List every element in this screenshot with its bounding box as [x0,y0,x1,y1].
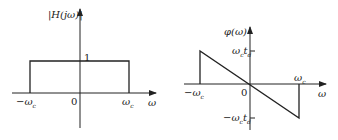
left-pos-cutoff-label: ωc [122,97,134,109]
right-neg-cutoff-label: −ωc [184,88,204,100]
right-pos-cutoff-label: ωc [294,73,306,85]
diagram-canvas [0,0,338,140]
left-origin-label: 0 [71,97,77,107]
bottom-phase-label: −ωctd [223,113,251,125]
right-origin-label: 0 [241,88,247,98]
top-phase-label: ωctd [232,46,251,58]
unit-level-label: 1 [84,53,90,63]
left-omega-axis-label: ω [148,98,156,108]
left-neg-cutoff-label: −ωc [16,97,36,109]
right-omega-axis-label: ω [318,89,326,99]
phase-axis-label: φ(ω) [224,27,247,37]
magnitude-plot [12,9,156,128]
magnitude-axis-label: |H(jω)| [48,10,83,20]
